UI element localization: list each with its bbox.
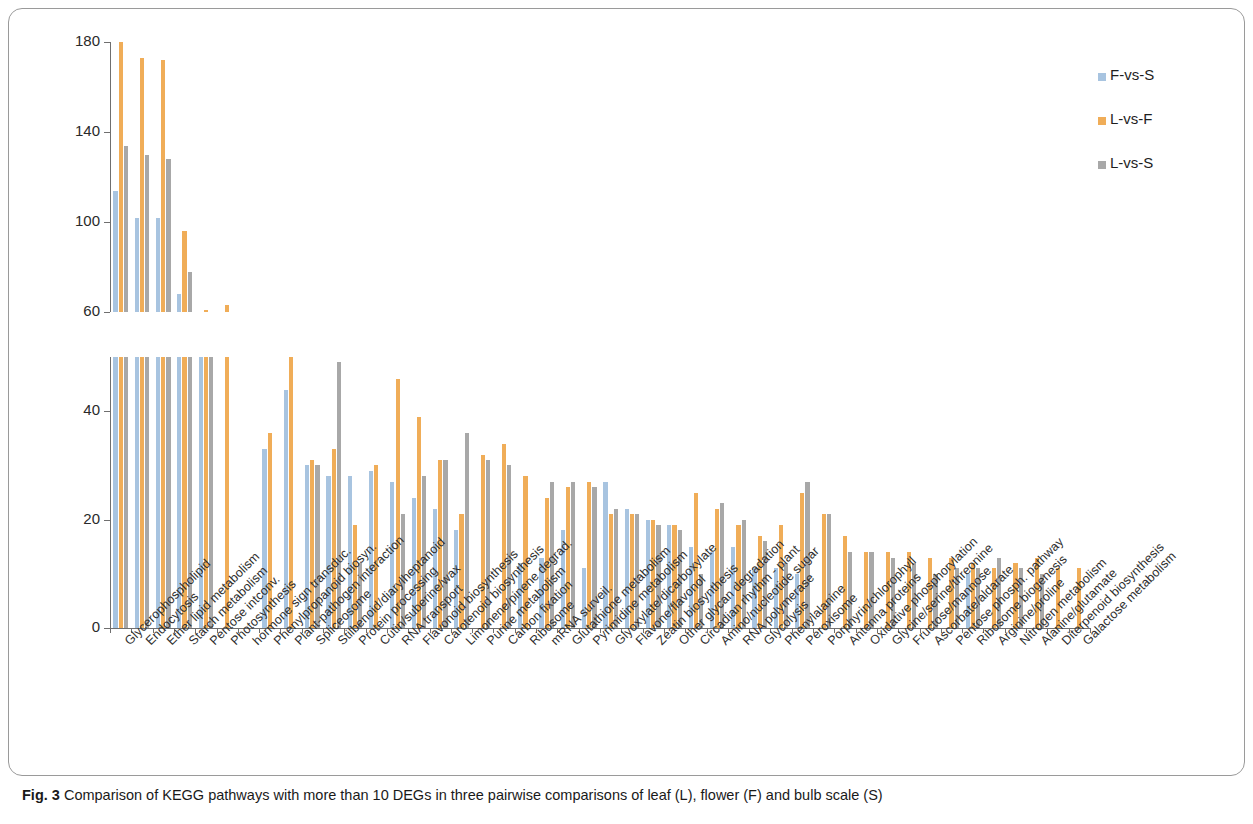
y-tick-label-upper: 100 [40,212,100,229]
bar-upper-f-vs-s [177,294,181,312]
bar-upper-f-vs-s [135,218,139,313]
y-tick-label-upper: 180 [40,32,100,49]
bar-f-vs-s [135,357,139,628]
bar-upper-f-vs-s [156,218,160,313]
bar-upper-l-vs-f [182,231,186,312]
y-tick-mark-upper [104,132,110,133]
bar-group-upper [195,42,216,312]
bar-f-vs-s [199,357,203,628]
legend-swatch-icon [1098,73,1106,81]
bar-l-vs-f [204,357,208,628]
bar-group-upper [153,42,174,312]
bar-upper-l-vs-f [225,305,229,312]
bar-group [110,357,131,628]
bar-upper-l-vs-f [140,58,144,312]
legend-swatch-icon [1098,117,1106,125]
y-tick-label-upper: 60 [40,302,100,319]
x-axis-category-labels: GlycerophospholipidEndocytosisEther lipi… [0,634,1253,774]
legend-label: L-vs-F [1110,110,1153,127]
y-tick-label: 20 [48,510,100,527]
bar-group [131,357,152,628]
bar-l-vs-f [161,357,165,628]
bar-upper-l-vs-s [145,155,149,313]
y-tick-mark-upper [104,42,110,43]
y-tick-mark-upper [104,222,110,223]
legend-label: F-vs-S [1110,66,1154,83]
bar-upper-l-vs-f [204,310,208,312]
bar-group-upper [131,42,152,312]
bar-l-vs-s [145,357,149,628]
bar-l-vs-s [124,357,128,628]
figure-container: 18014010060 40200 GlycerophospholipidEnd… [0,0,1253,824]
bar-f-vs-s [156,357,160,628]
bar-upper-l-vs-s [166,159,170,312]
upper-chart-panel [110,42,1090,312]
upper-bars-layer [110,42,1090,312]
legend-swatch-icon [1098,161,1106,169]
y-tick-label: 0 [48,618,100,635]
y-tick-label-upper: 140 [40,122,100,139]
bar-upper-l-vs-f [161,60,165,312]
figure-caption-text: Comparison of KEGG pathways with more th… [60,787,883,803]
bar-group-upper [110,42,131,312]
y-tick-mark [104,411,110,412]
legend: F-vs-SL-vs-FL-vs-S [1098,68,1228,200]
x-tick-mark [110,628,111,633]
y-tick-label: 40 [48,401,100,418]
figure-caption: Fig. 3 Comparison of KEGG pathways with … [22,786,1232,806]
bar-l-vs-f [140,357,144,628]
legend-item[interactable]: L-vs-F [1098,112,1228,156]
bar-upper-l-vs-f [119,42,123,312]
legend-item[interactable]: L-vs-S [1098,156,1228,200]
bar-group-upper [238,42,259,312]
y-tick-mark [104,520,110,521]
bar-group-upper [174,42,195,312]
figure-number: Fig. 3 [22,787,60,803]
bar-l-vs-s [209,357,213,628]
bar-l-vs-s [166,357,170,628]
legend-label: L-vs-S [1110,154,1153,171]
y-tick-mark-upper [104,312,110,313]
bar-l-vs-f [119,357,123,628]
bar-f-vs-s [113,357,117,628]
bar-upper-l-vs-s [124,146,128,313]
bar-group-upper [217,42,238,312]
legend-item[interactable]: F-vs-S [1098,68,1228,112]
bar-upper-f-vs-s [113,191,117,313]
bar-upper-l-vs-s [188,272,192,313]
